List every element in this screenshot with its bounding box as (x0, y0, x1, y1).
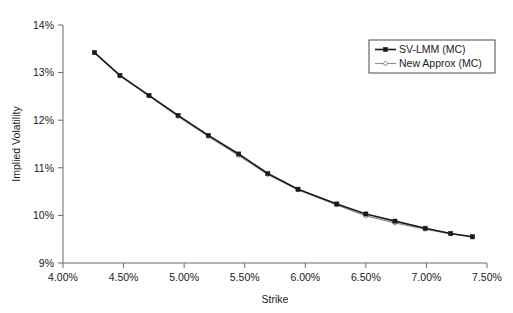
data-point-marker (393, 219, 397, 223)
y-axis-tick-label: 10% (33, 209, 54, 221)
x-axis-tick-label: 4.00% (48, 271, 78, 283)
data-point-marker (335, 202, 339, 206)
data-point-marker (147, 93, 151, 97)
x-axis-tick-label: 5.00% (169, 271, 199, 283)
data-point-marker (237, 152, 241, 156)
y-axis-tick-label: 11% (34, 162, 54, 174)
x-axis-tick-group: 4.00%4.50%5.00%5.50%6.00%6.50%7.00%7.50% (48, 263, 502, 283)
series-line (95, 53, 473, 237)
data-point-marker (266, 171, 270, 175)
y-axis-title: Implied Volatility (10, 106, 22, 182)
legend-marker-filled-square-icon (383, 47, 387, 51)
series-sv-lmm-mc (92, 51, 474, 239)
y-axis-tick-label: 13% (33, 66, 54, 78)
data-point-marker (364, 212, 368, 216)
series-new-approx-mc (93, 51, 475, 239)
data-point-marker (449, 231, 453, 235)
y-axis-tick-group: 9%10%11%12%13%14% (33, 19, 63, 269)
y-axis-tick-label: 14% (33, 19, 54, 31)
data-point-marker (206, 133, 210, 137)
x-axis-tick-label: 6.00% (290, 271, 320, 283)
x-axis-tick-label: 7.50% (472, 271, 502, 283)
y-axis-tick-label: 9% (39, 257, 54, 269)
legend-item-label: New Approx (MC) (399, 57, 482, 69)
x-axis-tick-label: 5.50% (230, 271, 260, 283)
chart-legend: SV-LMM (MC)New Approx (MC) (369, 40, 495, 73)
data-point-marker (296, 187, 300, 191)
chart-container: 9%10%11%12%13%14% 4.00%4.50%5.00%5.50%6.… (0, 0, 513, 313)
legend-item-label: SV-LMM (MC) (399, 43, 466, 55)
data-point-marker (176, 113, 180, 117)
implied-volatility-line-chart: 9%10%11%12%13%14% 4.00%4.50%5.00%5.50%6.… (0, 0, 513, 313)
data-point-marker (92, 51, 96, 55)
x-axis-tick-label: 6.50% (351, 271, 381, 283)
data-point-marker (118, 73, 122, 77)
data-point-marker (423, 226, 427, 230)
x-axis-title: Strike (262, 293, 289, 305)
y-axis-tick-label: 12% (33, 114, 54, 126)
series-line (95, 53, 473, 237)
legend-marker-open-circle-icon (384, 62, 388, 66)
data-series-layer (92, 51, 474, 239)
x-axis-tick-label: 4.50% (109, 271, 139, 283)
x-axis-tick-label: 7.00% (412, 271, 442, 283)
data-point-marker (470, 235, 474, 239)
